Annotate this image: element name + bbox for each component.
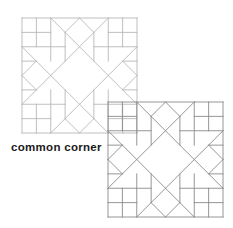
block-line <box>166 102 180 116</box>
quilt-block-drawing <box>108 102 223 217</box>
block-line <box>166 203 180 217</box>
block-line <box>65 119 79 133</box>
block-line <box>209 160 223 174</box>
quilt-block-bottom-right <box>108 102 223 217</box>
block-line <box>65 18 79 32</box>
block-line <box>80 119 94 133</box>
block-line <box>151 102 165 116</box>
block-line <box>108 145 122 159</box>
block-line <box>22 76 36 90</box>
caption-label: common corner <box>11 141 102 153</box>
block-line <box>123 76 137 90</box>
block-line <box>209 145 223 159</box>
block-line <box>151 203 165 217</box>
block-line <box>123 61 137 75</box>
block-line <box>80 18 94 32</box>
block-line <box>22 61 36 75</box>
block-line <box>108 160 122 174</box>
